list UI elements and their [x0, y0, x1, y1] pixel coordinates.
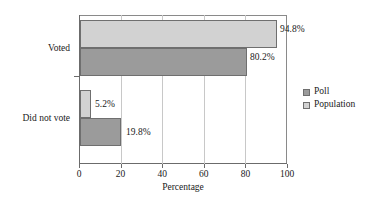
plot-frame-right	[286, 15, 287, 164]
ycat-label-did-not-vote: Did not vote	[23, 114, 71, 124]
bar-voted-population[interactable]	[80, 20, 277, 48]
xtick-mark-0	[79, 164, 80, 168]
bar-did-not-vote-population[interactable]	[80, 90, 91, 118]
legend: Poll Population	[303, 86, 355, 112]
xtick-label-0: 0	[69, 170, 89, 180]
xtick-mark-100	[287, 164, 288, 168]
bar-voted-poll[interactable]	[80, 48, 247, 76]
plot-frame-bottom	[79, 163, 287, 164]
xtick-mark-60	[204, 164, 205, 168]
bar-did-not-vote-poll[interactable]	[80, 118, 121, 146]
xtick-label-60: 60	[194, 170, 214, 180]
ytick-mark-0	[74, 76, 79, 77]
xtick-mark-80	[245, 164, 246, 168]
xtick-label-100: 100	[277, 170, 297, 180]
xtick-label-20: 20	[111, 170, 131, 180]
legend-swatch-icon-population	[303, 102, 310, 109]
legend-label-population: Population	[314, 100, 355, 110]
legend-item-poll[interactable]: Poll	[303, 86, 355, 98]
legend-swatch-icon-poll	[303, 89, 310, 96]
bar-label-voted-poll: 80.2%	[250, 53, 275, 63]
bar-chart: 94.8% 80.2% 5.2% 19.8% Voted Did not vot…	[0, 0, 382, 200]
plot-frame-top	[79, 15, 287, 16]
xtick-mark-20	[121, 164, 122, 168]
bar-label-voted-population: 94.8%	[280, 25, 305, 35]
plot-area	[79, 15, 287, 164]
bar-label-did-not-vote-population: 5.2%	[95, 100, 115, 110]
legend-label-poll: Poll	[314, 87, 329, 97]
x-axis-title: Percentage	[79, 183, 287, 193]
legend-item-population[interactable]: Population	[303, 99, 355, 111]
ycat-label-voted: Voted	[48, 44, 70, 54]
xtick-label-40: 40	[152, 170, 172, 180]
xtick-label-80: 80	[235, 170, 255, 180]
bar-label-did-not-vote-poll: 19.8%	[126, 128, 151, 138]
xtick-mark-40	[162, 164, 163, 168]
